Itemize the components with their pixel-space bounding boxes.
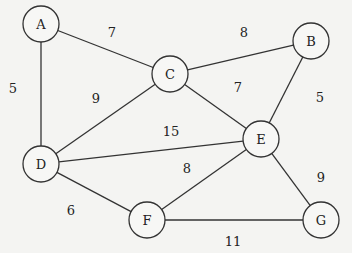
node-label: E <box>256 132 266 147</box>
node-label: D <box>36 157 46 172</box>
edge-weight-D-E: 15 <box>163 124 180 139</box>
edge-A-C <box>58 31 153 68</box>
edge-weight-D-F: 6 <box>67 203 75 218</box>
edge-C-B <box>188 45 294 70</box>
edge-weight-F-G: 11 <box>225 234 242 249</box>
edge-weight-A-C: 7 <box>108 25 116 40</box>
edge-D-E <box>59 141 243 162</box>
node-E: E <box>243 121 279 157</box>
node-label: F <box>142 213 151 228</box>
edge-E-F <box>162 149 247 209</box>
node-label: C <box>165 67 175 82</box>
edge-weight-C-B: 8 <box>240 25 248 40</box>
node-B: B <box>293 23 329 59</box>
node-label: G <box>316 213 326 228</box>
edge-weight-A-D: 5 <box>9 81 17 96</box>
node-D: D <box>23 146 59 182</box>
edge-E-G <box>272 153 311 205</box>
node-C: C <box>152 56 188 92</box>
weighted-graph: 7589751586911 ABCDEFG <box>0 0 352 253</box>
node-label: B <box>306 34 316 49</box>
node-G: G <box>303 202 339 238</box>
edge-weight-C-D: 9 <box>92 91 100 106</box>
edge-C-D <box>56 84 155 153</box>
node-A: A <box>23 6 59 42</box>
node-label: A <box>35 17 46 32</box>
edge-weight-E-G: 9 <box>317 170 325 185</box>
edge-B-E <box>269 57 303 123</box>
node-F: F <box>129 202 165 238</box>
edge-weight-B-E: 5 <box>316 90 324 105</box>
edge-weight-E-F: 8 <box>183 161 191 176</box>
edge-weight-C-E: 7 <box>234 80 242 95</box>
